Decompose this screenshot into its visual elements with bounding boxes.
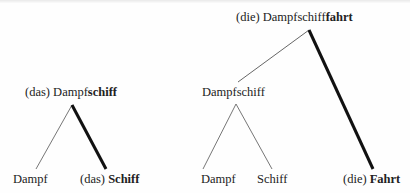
node-head-text: Fahrt (370, 172, 401, 186)
node-das-dampfschiff: (das) Dampfschiff (25, 85, 117, 99)
node-dampfschiff: Dampfschiff (202, 85, 265, 99)
node-die-dampfschifffahrt: (die) Dampfschifffahrt (236, 10, 353, 24)
node-text: (die) Dampfschiff (236, 10, 326, 24)
node-text: (das) (80, 172, 108, 186)
node-schiff-2: Schiff (257, 172, 287, 186)
edge-dampfschiff-dampf-2 (203, 104, 236, 169)
node-text: Dampf (201, 172, 236, 186)
node-text: Dampf (13, 172, 48, 186)
node-das-schiff: (das) Schiff (80, 172, 139, 186)
node-text: Schiff (257, 172, 287, 186)
edge-dampfschiff-schiff-2 (236, 104, 272, 169)
node-head-text: schiff (88, 85, 117, 99)
node-head-text: fahrt (326, 10, 353, 24)
node-head-text: Schiff (108, 172, 139, 186)
edge-dampfschiff-schiff-head (72, 105, 106, 169)
node-text: (die) (343, 172, 370, 186)
edge-dampfschifffahrt-fahrt-head (309, 30, 373, 169)
node-dampf-2: Dampf (201, 172, 236, 186)
edge-dampfschifffahrt-dampfschiff (238, 30, 309, 82)
node-text: (das) Dampf (25, 85, 88, 99)
node-text: Dampfschiff (202, 85, 265, 99)
edge-dampfschiff-dampf (36, 105, 72, 169)
node-dampf: Dampf (13, 172, 48, 186)
node-die-fahrt: (die) Fahrt (343, 172, 400, 186)
